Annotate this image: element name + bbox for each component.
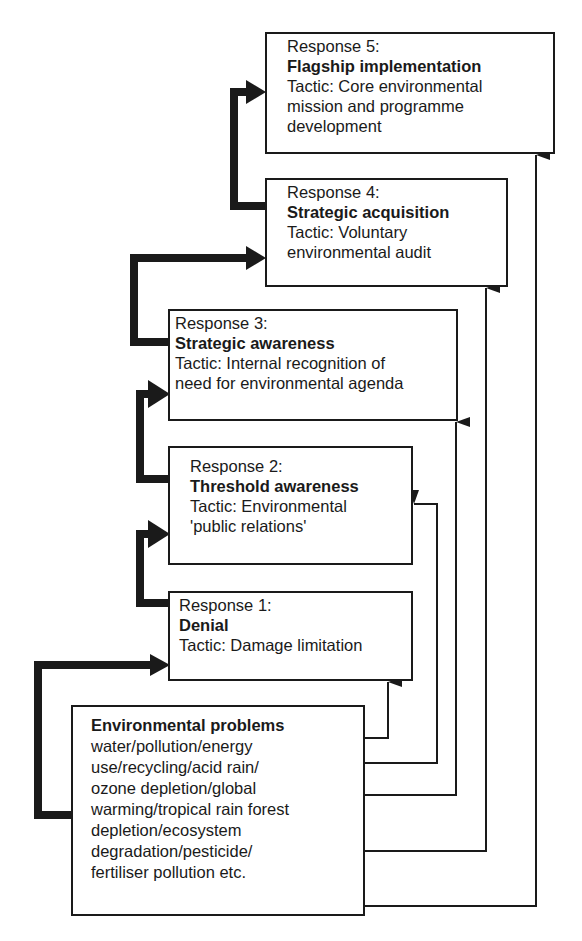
environmental-problems-title: Environmental problems <box>91 715 363 736</box>
thick-arrow-response4-to-response5 <box>234 92 266 206</box>
response-2-tactic-line-1: Tactic: Environmental <box>190 496 411 516</box>
response-1-box: Response 1: Denial Tactic: Damage limita… <box>168 591 413 681</box>
response-3-heading: Response 3: <box>175 313 456 333</box>
environmental-problems-box: Environmental problems water/pollution/e… <box>71 705 365 916</box>
response-1-tactic-line-1: Tactic: Damage limitation <box>179 635 411 655</box>
environmental-problems-line-2: use/recycling/acid rain/ <box>91 757 363 778</box>
response-5-tactic-line-2: mission and programme <box>287 96 553 116</box>
response-4-heading: Response 4: <box>287 182 506 202</box>
response-3-tactic-line-1: Tactic: Internal recognition of <box>175 353 456 373</box>
thick-arrow-response1-to-response2 <box>140 534 170 603</box>
environmental-problems-line-1: water/pollution/energy <box>91 736 363 757</box>
response-2-heading: Response 2: <box>190 456 411 476</box>
environmental-problems-line-7: fertiliser pollution etc. <box>91 862 363 883</box>
environmental-problems-line-3: ozone depletion/global <box>91 778 363 799</box>
arrowhead-response4 <box>246 246 266 270</box>
response-3-title: Strategic awareness <box>175 333 456 353</box>
response-4-tactic-line-1: Tactic: Voluntary <box>287 222 506 242</box>
response-3-tactic-line-2: need for environmental agenda <box>175 373 456 393</box>
thin-arrow-source-to-response1 <box>364 682 388 738</box>
environmental-problems-line-6: degradation/pesticide/ <box>91 841 363 862</box>
environmental-problems-line-4: warming/tropical rain forest <box>91 799 363 820</box>
response-4-title: Strategic acquisition <box>287 202 506 222</box>
arrowhead-response3 <box>148 380 170 408</box>
thick-arrow-response2-to-response3 <box>140 394 170 479</box>
response-3-box: Response 3: Strategic awareness Tactic: … <box>168 309 458 421</box>
response-2-box: Response 2: Threshold awareness Tactic: … <box>168 446 413 565</box>
arrowhead-response2 <box>148 520 170 548</box>
response-5-title: Flagship implementation <box>287 56 553 76</box>
environmental-problems-line-5: depletion/ecosystem <box>91 820 363 841</box>
response-4-box: Response 4: Strategic acquisition Tactic… <box>265 178 508 287</box>
response-5-tactic-line-1: Tactic: Core environmental <box>287 76 553 96</box>
response-2-tactic-line-2: 'public relations' <box>190 516 411 536</box>
response-5-heading: Response 5: <box>287 36 553 56</box>
arrowhead-response5 <box>246 80 266 104</box>
response-4-tactic-line-2: environmental audit <box>287 242 506 262</box>
response-5-box: Response 5: Flagship implementation Tact… <box>265 32 555 154</box>
response-2-title: Threshold awareness <box>190 476 411 496</box>
response-5-tactic-line-3: development <box>287 116 553 136</box>
arrowhead-response1 <box>150 654 170 676</box>
response-1-heading: Response 1: <box>179 595 411 615</box>
response-1-title: Denial <box>179 615 411 635</box>
